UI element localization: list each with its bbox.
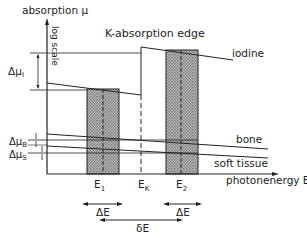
e2-label: E2	[176, 178, 187, 193]
delta-mu-s-label: ΔμS	[9, 149, 27, 162]
iodine-label: iodine	[232, 47, 264, 59]
ek-label: EK	[138, 178, 150, 193]
e1-label: E1	[94, 178, 105, 193]
k-edge-diagram: absorption μ log scale K-absorption edge…	[0, 0, 307, 240]
delta-mu-b-label: ΔμB	[9, 136, 27, 149]
bone-label: bone	[236, 133, 262, 145]
energy-band-e2	[166, 50, 198, 174]
y-axis	[45, 18, 49, 174]
delta-e-label-1: ΔE	[96, 206, 110, 218]
x-axis-label: photonenergy E	[226, 174, 307, 186]
bone-curve	[47, 134, 268, 149]
diagram-title: K-absorption edge	[105, 27, 205, 40]
iodine-curve	[47, 47, 233, 95]
delta-mu-i-label: ΔμI	[8, 65, 24, 79]
delta-e-label-2: ΔE	[176, 206, 190, 218]
log-scale-label: log scale	[50, 26, 60, 66]
small-delta-e-label: δE	[136, 222, 149, 234]
y-axis-label: absorption μ	[22, 4, 88, 16]
soft-tissue-label: soft tissue	[214, 157, 268, 169]
energy-band-e1	[87, 89, 119, 174]
